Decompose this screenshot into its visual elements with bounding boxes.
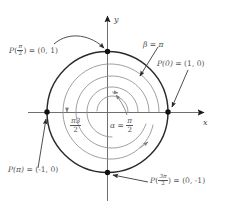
label-alpha-eq: = [118,122,124,130]
point-p-pi [44,109,49,114]
label-p-half-pi-frac: π2 [17,44,23,57]
label-alpha-frac: π2 [126,117,133,134]
y-axis-label: y [114,16,119,24]
label-p0-eq: = [175,59,181,68]
label-beta-eq: = [150,40,156,49]
point-p-half-pi [105,49,110,54]
label-p-pi-fn: P(π) [8,165,24,174]
label-p-half-pi: P(π2) = (0, 1) [9,44,58,57]
label-p-three-half-pi-value: (0, -1) [182,177,205,185]
leader-beta [140,47,158,76]
leader-p-three-half-pi [113,175,148,182]
label-p-pi-eq: = [26,165,32,174]
label-p-pi-value: (-1, 0) [35,165,58,174]
x-axis-label: x [203,119,208,127]
label-alpha: α = π2 [110,117,133,134]
label-beta-value: π [159,40,164,49]
label-beta-symbol: β [143,40,147,49]
label-p-half-pi-eq: = [29,47,35,55]
leader-p-half-pi [54,36,104,48]
label-p0: P(0) = (1, 0) [157,60,205,68]
label-p0-fn: P(0) [157,59,173,68]
label-alpha-symbol: α [110,122,115,130]
point-p0 [165,109,170,114]
label-three-half-pi: π3 2 [70,117,81,134]
label-p-half-pi-value: (0, 1) [38,47,58,55]
label-p0-value: (1, 0) [184,59,204,68]
point-p-three-half-pi [105,170,110,175]
label-p-three-half-pi-frac: 3π2 [158,174,167,187]
label-p-pi: P(π) = (-1, 0) [8,166,58,174]
label-beta: β = π [143,41,164,49]
leader-p-pi [38,119,46,168]
label-three-half-pi-frac: π3 2 [70,117,81,134]
leader-p0 [172,70,188,107]
label-p-three-half-pi: P(3π2) = (0, -1) [150,174,205,187]
label-p-three-half-pi-eq: = [173,177,179,185]
